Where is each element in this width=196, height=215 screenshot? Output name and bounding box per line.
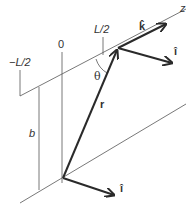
k-hat-label: k̂ <box>139 20 146 32</box>
i-hat-upper-label: î <box>173 45 178 57</box>
zero-label: 0 <box>58 38 64 50</box>
r-label: r <box>100 98 105 110</box>
theta-label: θ <box>94 70 101 83</box>
b-label: b <box>29 127 35 139</box>
half-L-label: L/2 <box>94 23 109 35</box>
i-hat-lower-label: î <box>119 182 124 194</box>
i-hat-lower-vector <box>63 178 114 195</box>
z-axis-label: z <box>179 2 186 14</box>
wire-geometry-diagram: z −L/2 0 L/2 b θ r k̂ î î <box>0 0 196 215</box>
lower-line <box>20 104 186 203</box>
minus-half-L-label: −L/2 <box>9 56 31 68</box>
i-hat-upper-vector <box>118 48 172 63</box>
